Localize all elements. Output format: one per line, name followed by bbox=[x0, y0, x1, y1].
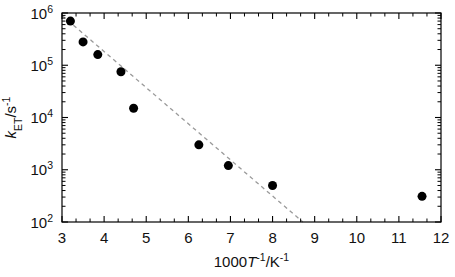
x-axis-title: 1000T-1/K-1 bbox=[214, 251, 290, 270]
x-tick-label: 5 bbox=[142, 229, 150, 246]
data-point bbox=[66, 17, 75, 26]
chart-figure: 3456789101112 102103104105106 1000T-1/K-… bbox=[0, 0, 455, 277]
x-tick-label: 8 bbox=[268, 229, 276, 246]
x-tick-label: 12 bbox=[433, 229, 450, 246]
data-point bbox=[129, 104, 138, 113]
data-point bbox=[116, 67, 125, 76]
x-tick-label: 6 bbox=[184, 229, 192, 246]
x-tick-label: 11 bbox=[391, 229, 407, 246]
x-tick-label: 10 bbox=[348, 229, 365, 246]
x-tick-label: 3 bbox=[58, 229, 66, 246]
data-point bbox=[268, 181, 277, 190]
data-point bbox=[79, 37, 88, 46]
x-tick-label: 7 bbox=[226, 229, 234, 246]
x-tick-label: 9 bbox=[310, 229, 318, 246]
x-axis-title-text: 1000T-1/K-1 bbox=[214, 251, 290, 270]
data-point bbox=[93, 50, 102, 59]
data-point bbox=[194, 140, 203, 149]
arrhenius-scatter-plot: 3456789101112 102103104105106 1000T-1/K-… bbox=[0, 0, 455, 277]
data-point bbox=[418, 192, 427, 201]
data-point bbox=[224, 161, 233, 170]
x-tick-label: 4 bbox=[100, 229, 108, 246]
